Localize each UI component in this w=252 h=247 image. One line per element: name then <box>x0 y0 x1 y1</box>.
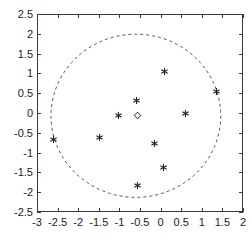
x-axis-tick <box>243 208 244 212</box>
data-point-marker <box>95 133 104 142</box>
x-axis-tick-label: 2 <box>228 217 252 228</box>
y-axis-tick <box>37 153 41 154</box>
x-axis-tick <box>119 14 120 18</box>
y-axis-tick <box>37 34 41 35</box>
x-axis-tick <box>58 208 59 212</box>
x-axis-tick <box>99 208 100 212</box>
y-axis-tick <box>239 14 243 15</box>
y-axis-tick <box>37 14 41 15</box>
x-axis-tick <box>181 208 182 212</box>
x-axis-tick <box>78 14 79 18</box>
y-axis-tick <box>239 54 243 55</box>
x-axis-tick <box>202 14 203 18</box>
y-axis-tick-label: 1 <box>3 68 33 79</box>
x-axis-tick <box>222 14 223 18</box>
y-axis-tick <box>239 113 243 114</box>
y-axis-tick <box>37 54 41 55</box>
data-point-marker <box>181 109 190 118</box>
scatter-plot-figure: -3-2.5-2-1.5-1-0.500.511.52-2.5-2-1.5-1-… <box>0 0 252 247</box>
data-point-marker <box>160 67 169 76</box>
x-axis-tick <box>140 14 141 18</box>
x-axis-tick <box>99 14 100 18</box>
x-axis-tick <box>119 208 120 212</box>
x-axis-tick <box>58 14 59 18</box>
centroid-marker <box>133 111 142 120</box>
data-point-marker <box>212 87 221 96</box>
x-axis-tick <box>140 208 141 212</box>
y-axis-tick-label: -1 <box>3 148 33 159</box>
x-axis-tick <box>243 14 244 18</box>
y-axis-tick <box>37 133 41 134</box>
y-axis-tick <box>37 113 41 114</box>
x-axis-tick <box>161 208 162 212</box>
y-axis-tick <box>37 93 41 94</box>
y-axis-tick-label: 2.5 <box>3 9 33 20</box>
y-axis-tick-label: 2 <box>3 29 33 40</box>
data-point-marker <box>150 139 159 148</box>
y-axis-tick-label: 1.5 <box>3 49 33 60</box>
y-axis-tick-label: -2 <box>3 187 33 198</box>
data-point-marker <box>159 163 168 172</box>
data-point-marker <box>114 111 123 120</box>
data-point-marker <box>133 181 142 190</box>
y-axis-tick <box>239 212 243 213</box>
x-axis-tick <box>78 208 79 212</box>
data-point-marker <box>49 135 58 144</box>
x-axis-tick <box>181 14 182 18</box>
y-axis-tick-label: -0.5 <box>3 128 33 139</box>
y-axis-tick <box>37 212 41 213</box>
y-axis-tick <box>37 172 41 173</box>
y-axis-tick <box>239 73 243 74</box>
y-axis-tick <box>239 133 243 134</box>
y-axis-tick <box>239 153 243 154</box>
y-axis-tick-label: 0.5 <box>3 88 33 99</box>
x-axis-tick <box>222 208 223 212</box>
y-axis-tick <box>239 192 243 193</box>
data-point-marker <box>132 96 141 105</box>
y-axis-tick <box>37 192 41 193</box>
y-axis-tick <box>239 34 243 35</box>
y-axis-tick <box>239 93 243 94</box>
y-axis-tick-label: -1.5 <box>3 167 33 178</box>
y-axis-tick <box>239 172 243 173</box>
y-axis-tick-label: -2.5 <box>3 207 33 218</box>
x-axis-tick <box>161 14 162 18</box>
y-axis-tick <box>37 73 41 74</box>
y-axis-tick-label: 0 <box>3 108 33 119</box>
x-axis-tick <box>202 208 203 212</box>
